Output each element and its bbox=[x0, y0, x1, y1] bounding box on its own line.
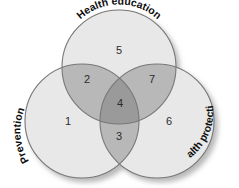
region-label-6: 6 bbox=[166, 115, 172, 127]
region-label-5: 5 bbox=[116, 44, 122, 56]
region-label-1: 1 bbox=[65, 115, 71, 127]
region-label-4: 4 bbox=[117, 97, 123, 109]
venn-diagram-canvas: 1 2 3 4 5 6 7 Health education Preventio… bbox=[0, 0, 239, 188]
region-label-7: 7 bbox=[149, 73, 155, 85]
region-label-3: 3 bbox=[116, 130, 122, 142]
venn-diagram-svg: 1 2 3 4 5 6 7 Health education Preventio… bbox=[0, 0, 239, 188]
region-label-2: 2 bbox=[84, 73, 90, 85]
